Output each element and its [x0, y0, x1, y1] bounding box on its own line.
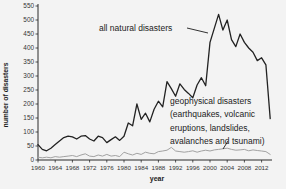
y-tick-label: 50 — [27, 142, 35, 149]
y-tick-label: 450 — [23, 30, 34, 37]
leader-line-all-natural — [187, 28, 208, 33]
x-tick-label: 1972 — [83, 164, 97, 171]
y-tick-label: 400 — [23, 44, 34, 51]
y-tick-label: 550 — [23, 2, 34, 9]
y-tick-label: 250 — [23, 86, 34, 93]
y-tick-label: 500 — [23, 16, 34, 23]
x-tick-label: 2004 — [220, 164, 234, 171]
y-tick-label: 150 — [23, 114, 34, 121]
x-tick-label: 2008 — [238, 164, 252, 171]
x-tick-label: 2012 — [255, 164, 269, 171]
annotation-all-natural-disasters: all natural disasters — [99, 22, 172, 35]
x-tick-label: 1976 — [100, 164, 114, 171]
disasters-line-chart: 0501001502002503003504004505005501960196… — [0, 0, 286, 189]
annotation-geophysical-line1: geophysical disasters — [170, 95, 265, 108]
x-tick-label: 1984 — [134, 164, 148, 171]
y-tick-label: 0 — [30, 156, 34, 163]
y-tick-label: 350 — [23, 58, 34, 65]
y-axis-title: number of disasters — [2, 62, 9, 127]
annotation-geophysical-disasters: geophysical disasters (earthquakes, volc… — [170, 95, 265, 149]
y-tick-label: 300 — [23, 72, 34, 79]
x-tick-label: 1968 — [66, 164, 80, 171]
x-tick-label: 1980 — [117, 164, 131, 171]
x-axis-title: year — [150, 175, 165, 183]
annotation-geophysical-line4: avalanches and tsunami) — [170, 135, 265, 148]
geophysical-disasters-line — [38, 147, 270, 157]
x-tick-label: 1964 — [48, 164, 62, 171]
x-tick-label: 2000 — [203, 164, 217, 171]
x-tick-label: 1960 — [31, 164, 45, 171]
y-tick-label: 200 — [23, 100, 34, 107]
x-tick-label: 1992 — [169, 164, 183, 171]
annotation-geophysical-line2: (earthquakes, volcanic — [170, 108, 265, 121]
annotation-geophysical-line3: eruptions, landslides, — [170, 122, 265, 135]
x-tick-label: 1988 — [152, 164, 166, 171]
x-tick-label: 1996 — [186, 164, 200, 171]
y-tick-label: 100 — [23, 128, 34, 135]
